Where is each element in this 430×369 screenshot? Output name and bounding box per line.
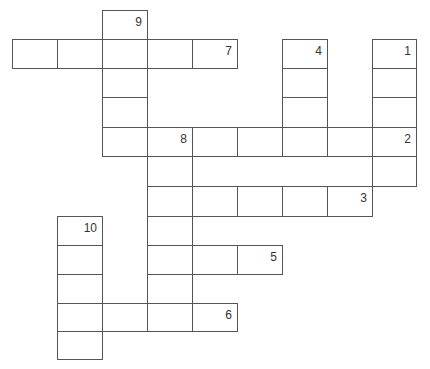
crossword-cell-clue-2[interactable]: 2	[372, 127, 417, 157]
clue-number: 5	[270, 250, 277, 264]
crossword-cell-clue-10[interactable]: 10	[57, 216, 103, 246]
crossword-cell[interactable]	[147, 216, 193, 246]
clue-number: 2	[404, 132, 411, 146]
crossword-grid: 97418231056	[0, 0, 430, 369]
clue-number: 9	[135, 15, 142, 29]
crossword-cell[interactable]	[147, 186, 193, 217]
crossword-cell-clue-7[interactable]: 7	[192, 39, 238, 69]
crossword-cell[interactable]	[372, 68, 417, 98]
crossword-cell[interactable]	[147, 39, 193, 69]
crossword-cell[interactable]	[372, 156, 417, 187]
crossword-cell[interactable]	[102, 303, 148, 332]
clue-number: 4	[315, 44, 322, 58]
crossword-cell[interactable]	[147, 274, 193, 304]
crossword-cell[interactable]	[57, 331, 103, 360]
crossword-cell-clue-1[interactable]: 1	[372, 39, 417, 69]
crossword-cell[interactable]	[12, 39, 58, 69]
crossword-cell[interactable]	[282, 68, 328, 98]
crossword-cell[interactable]	[237, 186, 283, 217]
clue-number: 8	[180, 132, 187, 146]
clue-number: 3	[360, 191, 367, 205]
clue-number: 7	[225, 44, 232, 58]
crossword-cell[interactable]	[102, 97, 148, 128]
crossword-cell[interactable]	[147, 303, 193, 332]
crossword-cell-clue-6[interactable]: 6	[192, 303, 238, 332]
crossword-cell[interactable]	[282, 186, 328, 217]
crossword-cell[interactable]	[147, 156, 193, 187]
crossword-cell[interactable]	[237, 127, 283, 157]
crossword-cell[interactable]	[192, 186, 238, 217]
clue-number: 10	[84, 221, 97, 235]
crossword-cell[interactable]	[282, 127, 328, 157]
crossword-cell[interactable]	[192, 127, 238, 157]
crossword-cell[interactable]	[327, 127, 373, 157]
crossword-cell-clue-5[interactable]: 5	[237, 245, 283, 275]
crossword-cell[interactable]	[282, 97, 328, 128]
crossword-cell-clue-4[interactable]: 4	[282, 39, 328, 69]
crossword-cell-clue-8[interactable]: 8	[147, 127, 193, 157]
crossword-cell[interactable]	[372, 97, 417, 128]
crossword-cell[interactable]	[102, 127, 148, 157]
crossword-cell[interactable]	[102, 68, 148, 98]
crossword-cell[interactable]	[102, 39, 148, 69]
clue-number: 6	[225, 308, 232, 322]
crossword-cell-clue-3[interactable]: 3	[327, 186, 373, 217]
crossword-cell[interactable]	[192, 245, 238, 275]
crossword-cell[interactable]	[147, 245, 193, 275]
crossword-cell-clue-9[interactable]: 9	[102, 10, 148, 40]
crossword-cell[interactable]	[57, 39, 103, 69]
crossword-cell[interactable]	[57, 245, 103, 275]
crossword-cell[interactable]	[57, 303, 103, 332]
clue-number: 1	[404, 44, 411, 58]
crossword-cell[interactable]	[57, 274, 103, 304]
